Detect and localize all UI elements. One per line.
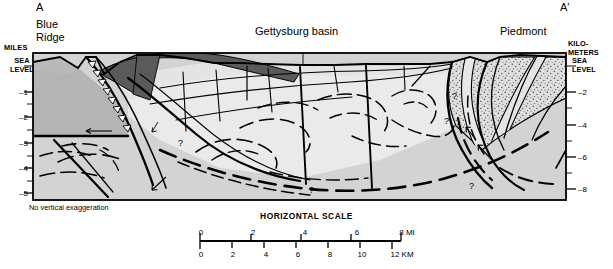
query-mark-2: ? (309, 185, 314, 195)
query-mark-5: ? (452, 91, 457, 101)
query-mark-4: ? (444, 116, 449, 126)
query-mark-1: ? (178, 138, 183, 148)
scale-ticks-miles (200, 233, 401, 241)
scale-ticks-km (200, 241, 392, 249)
section-panel: ? ? ? ? ? (33, 52, 566, 200)
axis-ticks-left (24, 92, 33, 193)
axis-ticks-right (566, 92, 576, 189)
cross-section-drawing: ? ? ? ? ? (0, 0, 613, 269)
query-mark-3: ? (469, 181, 474, 191)
cross-section-figure: A A′ Blue Ridge Gettysburg basin Piedmon… (0, 0, 613, 269)
horizontal-scale-bar (200, 233, 401, 249)
